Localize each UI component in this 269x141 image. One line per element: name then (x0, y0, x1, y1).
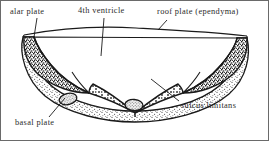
leader-line-roof-plate (158, 20, 167, 30)
leader-line-alar-plate (34, 18, 37, 37)
label-fourth-ventricle: 4th ventricle (78, 7, 125, 15)
roof-plate-structure (23, 27, 247, 38)
anatomical-figure: alar plate 4th ventricle roof plate (epe… (0, 0, 269, 141)
roof-plate-membrane (24, 27, 247, 36)
label-basal-plate: basal plate (15, 119, 54, 127)
label-roof-plate: roof plate (ependyma) (157, 8, 239, 16)
label-alar-plate: alar plate (10, 8, 44, 16)
label-sulcus-limitans: sulcus limitans (181, 102, 236, 110)
